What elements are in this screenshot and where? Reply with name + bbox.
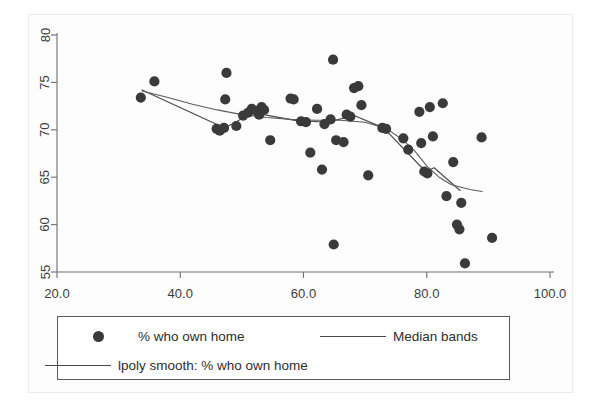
scatter-points-group xyxy=(136,55,497,269)
y-tick-label: 75 xyxy=(38,75,53,89)
legend-label-median-bands: Median bands xyxy=(393,329,478,344)
data-point xyxy=(381,124,391,134)
data-point xyxy=(398,133,408,143)
data-point xyxy=(356,100,366,110)
data-point xyxy=(301,117,311,127)
data-point xyxy=(231,121,241,131)
data-point xyxy=(428,131,438,141)
data-point xyxy=(312,104,322,114)
data-point xyxy=(220,94,230,104)
data-point xyxy=(422,168,432,178)
y-tick-label: 65 xyxy=(38,170,53,184)
data-point xyxy=(456,198,466,208)
x-tick-label: 80.0 xyxy=(414,286,439,301)
data-point xyxy=(326,114,336,124)
data-point xyxy=(441,191,451,201)
data-point xyxy=(338,137,348,147)
filled-circle-icon xyxy=(93,331,104,342)
data-point xyxy=(438,98,448,108)
data-point xyxy=(259,105,269,115)
data-point xyxy=(425,102,435,112)
data-point xyxy=(328,55,338,65)
y-tick-label: 55 xyxy=(38,265,53,279)
chart-legend: % who own home Median bands lpoly smooth… xyxy=(57,316,510,380)
tick-labels-group: 55606570758020.040.060.080.0100.0 xyxy=(38,28,567,301)
y-tick-label: 80 xyxy=(38,28,53,42)
y-tick-label: 60 xyxy=(38,217,53,231)
data-point xyxy=(221,68,231,78)
axes-group xyxy=(51,33,554,278)
x-tick-label: 60.0 xyxy=(291,286,316,301)
chart-figure: 55606570758020.040.060.080.0100.0 % who … xyxy=(0,0,599,407)
data-point xyxy=(416,138,426,148)
legend-label-lpoly-smooth: lpoly smooth: % who own home xyxy=(118,358,308,373)
data-point xyxy=(487,233,497,243)
data-point xyxy=(403,145,413,155)
data-point xyxy=(289,94,299,104)
data-point xyxy=(136,92,146,102)
series-line xyxy=(142,90,460,190)
legend-entry-median-bands: Median bands xyxy=(313,323,513,349)
data-point xyxy=(265,135,275,145)
data-point xyxy=(363,170,373,180)
data-point xyxy=(317,165,327,175)
data-point xyxy=(329,239,339,249)
data-point xyxy=(460,258,470,268)
y-tick-label: 70 xyxy=(38,123,53,137)
x-tick-label: 100.0 xyxy=(534,286,567,301)
line-segment-icon-2 xyxy=(45,365,111,366)
data-point xyxy=(448,157,458,167)
data-point xyxy=(414,107,424,117)
legend-marker-key xyxy=(58,331,138,342)
legend-line-key-2 xyxy=(38,365,118,366)
legend-entry-lpoly-smooth: lpoly smooth: % who own home xyxy=(38,352,458,378)
legend-line-key xyxy=(313,336,393,337)
data-point xyxy=(345,111,355,121)
line-segment-icon xyxy=(320,336,386,337)
data-point xyxy=(305,147,315,157)
data-point xyxy=(353,81,363,91)
data-point xyxy=(477,132,487,142)
x-tick-label: 20.0 xyxy=(44,286,69,301)
data-point xyxy=(454,224,464,234)
data-point xyxy=(219,123,229,133)
legend-label-own-home: % who own home xyxy=(138,329,245,344)
x-tick-label: 40.0 xyxy=(168,286,193,301)
data-point xyxy=(149,76,159,86)
